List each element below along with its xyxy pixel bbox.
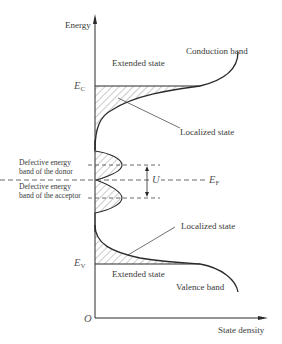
acceptor-band-label-line2: band of the acceptor [19, 191, 81, 200]
energy-axis-arrow-icon [93, 14, 97, 24]
extended-state-top-label: Extended state [112, 59, 165, 68]
origin-label: O [84, 314, 92, 325]
localized-state-bottom-leader [128, 227, 175, 255]
state-density-axis-arrow-icon [258, 316, 268, 320]
donor-band-label-line2: band of the donor [19, 167, 73, 176]
u-label: U [151, 175, 161, 186]
ev-label: EV [74, 258, 85, 270]
diagram-canvas: Energy State density O EC EV EF U Extend… [0, 0, 282, 344]
u-arrow-bottom-icon [145, 192, 149, 197]
ef-label: EF [209, 175, 219, 187]
energy-axis-label: Energy [65, 21, 91, 30]
acceptor-band-label: Defective energy band of the acceptor [19, 182, 81, 200]
valence-band-label: Valence band [176, 283, 224, 292]
state-density-axis-label: State density [218, 326, 264, 335]
u-arrow-top-icon [145, 166, 149, 171]
acceptor-band-label-line1: Defective energy [19, 182, 81, 191]
donor-band-label: Defective energy band of the donor [19, 158, 73, 176]
ec-label: EC [74, 81, 85, 93]
donor-band-label-line1: Defective energy [19, 158, 73, 167]
conduction-band-label: Conduction band [186, 47, 248, 56]
extended-state-bottom-label: Extended state [112, 270, 165, 279]
localized-state-bottom-label: Localized state [181, 222, 235, 231]
localized-state-top-leader [118, 98, 180, 128]
localized-state-top-label: Localized state [180, 128, 234, 137]
